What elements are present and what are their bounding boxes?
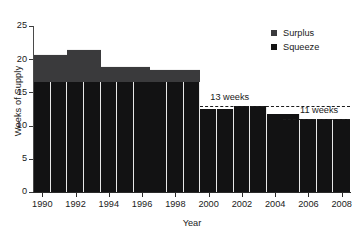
y-axis-label: Weeks of Supply <box>13 31 23 171</box>
bar-segment-squeeze <box>234 106 251 192</box>
y-tick-mark <box>29 192 33 193</box>
bar-segment-squeeze <box>200 109 217 192</box>
bar-segment-surplus <box>150 69 167 82</box>
x-tick-mark <box>342 193 343 197</box>
legend-item-surplus: Surplus <box>271 27 319 39</box>
bar-segment-squeeze <box>184 82 201 192</box>
reference-label-13-weeks: 13 weeks <box>210 92 249 102</box>
bar-2000 <box>200 26 217 192</box>
x-tick-label-1994: 1994 <box>92 200 126 209</box>
x-tick-label-1998: 1998 <box>158 200 192 209</box>
x-tick-mark <box>76 193 77 197</box>
bar-1995 <box>117 26 134 192</box>
y-tick-label-25: 25 <box>7 21 27 30</box>
legend-item-label: Surplus <box>283 28 314 38</box>
bar-segment-surplus <box>134 66 151 83</box>
bar-segment-surplus <box>101 66 118 83</box>
x-tick-label-2000: 2000 <box>192 200 226 209</box>
y-tick-mark <box>29 126 33 127</box>
y-tick-label-20: 20 <box>7 55 27 64</box>
bar-segment-squeeze <box>300 119 317 192</box>
bar-1999 <box>184 26 201 192</box>
bar-1997 <box>150 26 167 192</box>
bar-segment-surplus <box>34 54 51 83</box>
x-tick-mark <box>275 193 276 197</box>
y-tick-label-5: 5 <box>7 154 27 163</box>
legend-item-label: Squeeze <box>283 42 319 52</box>
y-tick-mark <box>29 59 33 60</box>
bar-1990 <box>34 26 51 192</box>
bar-segment-squeeze <box>150 82 167 192</box>
bar-segment-squeeze <box>101 82 118 192</box>
x-tick-label-2006: 2006 <box>291 200 325 209</box>
bar-segment-squeeze <box>283 114 300 192</box>
x-tick-mark <box>142 193 143 197</box>
bar-segment-squeeze <box>67 82 84 192</box>
bar-2002 <box>234 26 251 192</box>
bar-segment-squeeze <box>250 106 267 192</box>
y-tick-label-0: 0 <box>7 187 27 196</box>
bar-segment-squeeze <box>317 119 334 192</box>
reference-line-11-weeks <box>283 119 350 120</box>
y-tick-label-10: 10 <box>7 121 27 130</box>
weeks-of-supply-chart: Weeks of Supply Year SurplusSqueeze 0510… <box>0 0 357 242</box>
bar-segment-squeeze <box>117 82 134 192</box>
x-tick-mark <box>209 193 210 197</box>
x-tick-label-1996: 1996 <box>125 200 159 209</box>
legend-swatch-icon <box>271 30 277 36</box>
bar-1994 <box>101 26 118 192</box>
x-tick-label-2002: 2002 <box>225 200 259 209</box>
bar-segment-squeeze <box>34 82 51 192</box>
x-tick-label-1992: 1992 <box>59 200 93 209</box>
legend-swatch-icon <box>271 44 277 50</box>
y-axis-line <box>33 26 34 193</box>
bar-1998 <box>167 26 184 192</box>
bar-segment-surplus <box>117 66 134 83</box>
bar-segment-squeeze <box>84 82 101 192</box>
x-tick-label-1990: 1990 <box>25 200 59 209</box>
bar-segment-surplus <box>167 69 184 82</box>
bar-segment-squeeze <box>134 82 151 192</box>
x-tick-mark <box>175 193 176 197</box>
chart-legend: SurplusSqueeze <box>271 27 319 55</box>
bar-2003 <box>250 26 267 192</box>
x-axis-line <box>33 192 351 193</box>
bar-1993 <box>84 26 101 192</box>
reference-label-11-weeks: 11 weeks <box>300 105 338 115</box>
bar-segment-squeeze <box>267 114 284 192</box>
bar-segment-surplus <box>184 69 201 82</box>
bar-segment-surplus <box>51 54 68 83</box>
y-tick-mark <box>29 26 33 27</box>
bar-segment-surplus <box>67 49 84 82</box>
bar-1991 <box>51 26 68 192</box>
legend-item-squeeze: Squeeze <box>271 41 319 53</box>
bar-1992 <box>67 26 84 192</box>
bar-segment-squeeze <box>333 119 350 192</box>
x-tick-mark <box>242 193 243 197</box>
x-tick-mark <box>42 193 43 197</box>
bar-segment-squeeze <box>167 82 184 192</box>
bar-2001 <box>217 26 234 192</box>
y-tick-mark <box>29 92 33 93</box>
y-tick-mark <box>29 159 33 160</box>
x-axis-label: Year <box>162 218 222 228</box>
y-tick-label-15: 15 <box>7 88 27 97</box>
x-tick-label-2004: 2004 <box>258 200 292 209</box>
bar-1996 <box>134 26 151 192</box>
bar-segment-squeeze <box>51 82 68 192</box>
x-tick-label-2008: 2008 <box>325 200 357 209</box>
bar-segment-surplus <box>84 49 101 82</box>
bar-segment-squeeze <box>217 109 234 192</box>
x-tick-mark <box>109 193 110 197</box>
x-tick-mark <box>308 193 309 197</box>
